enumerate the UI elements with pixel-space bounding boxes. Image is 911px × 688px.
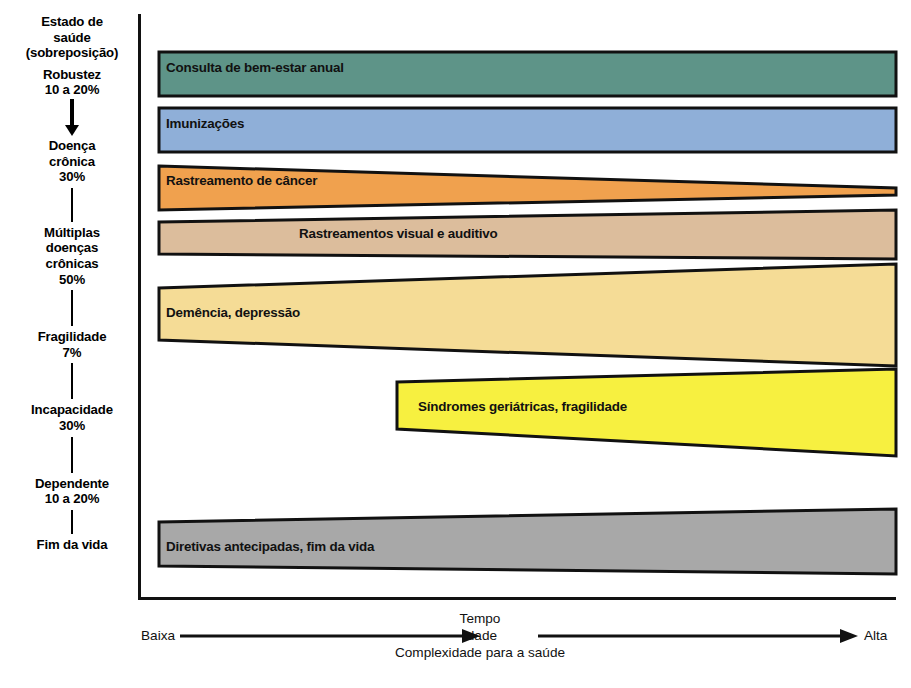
figure-root: Estado de saúde (sobreposição) Robustez … <box>0 0 911 688</box>
connector-line-4 <box>8 434 136 476</box>
axis-label-alta: Alta <box>864 628 887 643</box>
band-label-annual-wellness-visit: Consulta de bem-estar anual <box>166 61 344 75</box>
stage-multiplas-doencas-cronicas: Múltiplas doenças crônicas 50% <box>8 225 136 287</box>
band-label-dementia-depression: Demência, depressão <box>166 306 300 320</box>
band-label-advance-directives-end-of-life: Diretivas antecipadas, fim da vida <box>166 540 374 554</box>
band-immunizations <box>159 108 896 152</box>
stage-robustez: Robustez 10 a 20% <box>8 67 136 98</box>
axis-center-line-tempo: Tempo <box>420 611 540 628</box>
stage-doenca-cronica: Doença crônica 30% <box>8 138 136 185</box>
axis-label-baixa: Baixa <box>141 628 175 643</box>
connector-line-1 <box>8 185 136 225</box>
band-label-immunizations: Imunizações <box>166 117 244 131</box>
health-column-header: Estado de saúde (sobreposição) <box>8 14 136 61</box>
band-label-vision-hearing-screening: Rastreamentos visual e auditivo <box>299 227 497 241</box>
band-label-geriatric-syndromes-frailty: Síndromes geriátricas, fragilidade <box>418 400 627 414</box>
health-state-column: Estado de saúde (sobreposição) Robustez … <box>8 14 136 598</box>
axis-center-line-idade: Idade <box>420 628 540 645</box>
connector-arrow-robustez-to-doenca <box>8 98 136 138</box>
bottom-axis: Baixa Tempo Idade Complexidade para a sa… <box>0 606 911 682</box>
stage-incapacidade: Incapacidade 30% <box>8 402 136 433</box>
connector-line-5 <box>8 507 136 537</box>
band-vision-hearing-screening <box>159 210 896 259</box>
axis-center-line-complexidade: Complexidade para a saúde <box>360 645 600 662</box>
connector-line-3 <box>8 360 136 402</box>
stage-fragilidade: Fragilidade 7% <box>8 329 136 360</box>
band-label-cancer-screening: Rastreamento de câncer <box>166 174 317 188</box>
connector-line-2 <box>8 287 136 329</box>
axis-arrow-right-icon <box>538 628 858 646</box>
stage-fim-da-vida: Fim da vida <box>8 537 136 553</box>
stage-dependente: Dependente 10 a 20% <box>8 476 136 507</box>
down-arrow-icon <box>65 99 79 136</box>
